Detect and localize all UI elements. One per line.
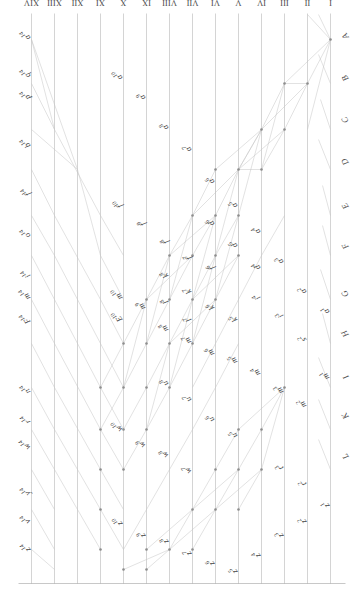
level-label-VI: VI (210, 0, 219, 7)
level-label-XII: XII (71, 0, 83, 7)
figure-stage: I II III IV V VI VII VIII IX X XI XII XI… (0, 0, 361, 599)
level-label-II: II (304, 0, 310, 7)
diagram-canvas: I II III IV V VI VII VIII IX X XI XII XI… (0, 0, 361, 599)
level-label-XI: XI (95, 0, 104, 7)
level-label-IV: IV (256, 0, 265, 7)
level-label-III: III (280, 0, 289, 7)
level-label-I: I (329, 0, 332, 7)
level-label-VII: VII (186, 0, 198, 7)
diagram-graphics (0, 0, 361, 599)
level-label-IX: IX (141, 0, 150, 7)
level-label-VIII: VIII (162, 0, 177, 7)
level-label-XIII: XIII (47, 0, 62, 7)
level-baselines (31, 13, 330, 583)
level-label-X: X (120, 0, 126, 7)
level-label-V: V (235, 0, 241, 7)
level-label-XIV: XIV (23, 0, 38, 7)
